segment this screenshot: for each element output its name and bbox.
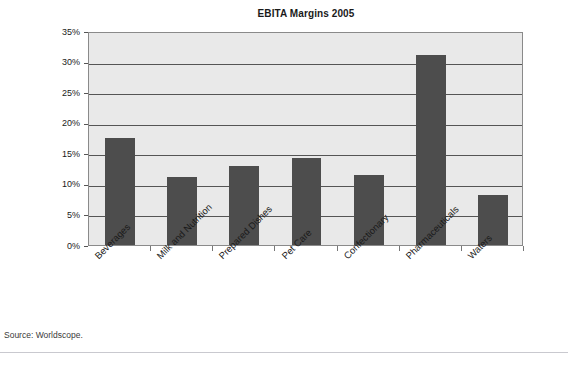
bar: [354, 175, 384, 245]
bar: [478, 195, 508, 245]
y-axis-tick-label: 35%: [42, 28, 80, 37]
y-axis-tick-mark: [84, 246, 88, 247]
bottom-divider: [0, 352, 568, 353]
y-axis-tick-label: 0%: [42, 242, 80, 251]
y-axis-tick-label: 30%: [42, 58, 80, 67]
x-axis-tick-mark: [399, 246, 400, 251]
x-axis-tick-mark: [461, 246, 462, 251]
y-axis-tick-label: 10%: [42, 180, 80, 189]
x-axis-tick-mark: [274, 246, 275, 251]
bar: [292, 158, 322, 245]
bar: [416, 55, 446, 245]
bar-series: [89, 33, 522, 245]
y-axis-tick-label: 20%: [42, 119, 80, 128]
y-axis-tick-label: 25%: [42, 89, 80, 98]
cropped-header-text: [14, 0, 274, 8]
bar: [229, 166, 259, 245]
x-axis-tick-mark: [212, 246, 213, 251]
bar: [167, 177, 197, 245]
chart-figure: EBITA Margins 2005 0%5%10%15%20%25%30%35…: [0, 0, 568, 370]
x-axis-tick-mark: [337, 246, 338, 251]
y-axis-tick-label: 5%: [42, 211, 80, 220]
source-note: Source: Worldscope.: [4, 330, 83, 340]
plot-area: [88, 32, 523, 246]
bar: [105, 138, 135, 245]
x-axis-tick-mark: [523, 246, 524, 251]
x-axis-tick-mark: [150, 246, 151, 251]
y-axis-tick-label: 15%: [42, 150, 80, 159]
chart-title: EBITA Margins 2005: [0, 8, 568, 19]
chart-title-text: EBITA Margins 2005: [258, 8, 355, 19]
